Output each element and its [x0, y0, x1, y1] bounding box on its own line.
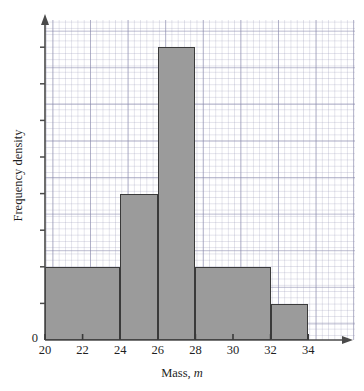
x-axis-title: Mass, m — [0, 366, 364, 381]
histogram-bar-28-32 — [195, 267, 270, 340]
x-tick-label-22: 22 — [70, 343, 96, 358]
x-axis-title-text: Mass, — [161, 366, 191, 380]
histogram-bar-20-24 — [45, 267, 120, 340]
x-tick-label-20: 20 — [32, 343, 58, 358]
x-tick-label-24: 24 — [107, 343, 133, 358]
x-tick-label-28: 28 — [182, 343, 208, 358]
x-axis-title-variable: m — [194, 366, 203, 380]
histogram-bar-24-26 — [120, 194, 158, 340]
histogram-bar-26-28 — [158, 47, 196, 340]
x-tick-label-34: 34 — [295, 343, 321, 358]
histogram-figure: 0 20 22 24 26 28 30 32 34 Mass, m Freque… — [0, 0, 364, 391]
y-axis-title: Frequency density — [11, 96, 26, 256]
x-tick-label-32: 32 — [258, 343, 284, 358]
x-tick-label-30: 30 — [220, 343, 246, 358]
x-tick-label-26: 26 — [145, 343, 171, 358]
histogram-bar-32-34 — [271, 304, 309, 341]
